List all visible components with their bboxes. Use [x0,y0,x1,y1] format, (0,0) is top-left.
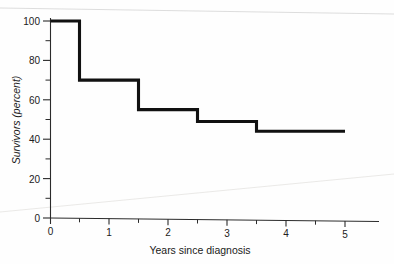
y-tick-label-20: 20 [29,174,41,185]
data-series-survivors [51,21,346,131]
x-tick-label-5: 5 [342,229,348,240]
chart-canvas: 100 80 60 40 20 0 [0,0,394,264]
y-tick-label-60: 60 [29,95,41,106]
x-axis-title: Years since diagnosis [149,244,250,256]
y-tick-label-100: 100 [23,16,40,27]
x-tick-label-3: 3 [224,228,230,239]
y-tick-label-0: 0 [34,213,40,224]
survival-step-line [51,21,346,131]
y-tick-label-80: 80 [29,55,41,66]
scan-line-top [0,8,394,14]
x-tick-label-4: 4 [283,228,289,239]
x-tick-label-0: 0 [48,226,54,237]
x-tick-label-2: 2 [165,227,171,238]
y-axis-title: Survivors (percent) [10,76,22,165]
scan-line-diagonal [0,174,394,212]
x-tick-label-1: 1 [106,227,112,238]
x-axis-line [50,218,379,222]
survival-curve-figure: 100 80 60 40 20 0 [0,0,394,264]
y-tick-label-40: 40 [29,134,41,145]
y-axis-ticks: 100 80 60 40 20 0 [23,16,50,224]
x-axis-ticks: 0 1 2 3 4 5 [48,218,349,240]
